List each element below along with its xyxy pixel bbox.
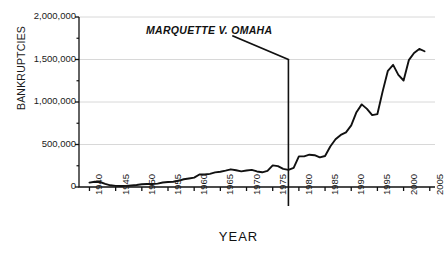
x-axis-tick-label: 1995 xyxy=(381,174,392,195)
x-axis-title: YEAR xyxy=(0,229,439,244)
annotation-leader-line xyxy=(233,36,288,60)
x-axis-tick-label: 1970 xyxy=(251,174,262,195)
x-axis-tick-label: 1940 xyxy=(93,174,104,195)
x-axis-tick-label: 1960 xyxy=(198,174,209,195)
x-axis-title-text: YEAR xyxy=(181,229,258,244)
x-axis-tick-label: 1945 xyxy=(120,174,131,195)
x-axis-tick-label: 2000 xyxy=(408,174,419,195)
annotation-label-marquette-v-omaha: MARQUETTE V. OMAHA xyxy=(146,24,272,36)
x-axis-tick-label: 1980 xyxy=(303,174,314,195)
x-axis-tick-label: 1975 xyxy=(277,174,288,195)
x-axis-tick-label: 1965 xyxy=(224,174,235,195)
x-axis-tick-label: 2005 xyxy=(434,174,445,195)
x-axis-tick-label: 1990 xyxy=(355,174,366,195)
x-axis-tick-label: 1950 xyxy=(146,174,157,195)
x-axis-tick-label: 1985 xyxy=(329,174,340,195)
x-axis-tick-label: 1955 xyxy=(172,174,183,195)
data-line-bankruptcies xyxy=(89,49,424,186)
